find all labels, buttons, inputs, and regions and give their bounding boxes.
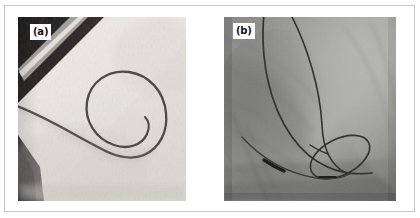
figure-root: (a) (b) — [0, 0, 420, 218]
panel-b-fluoroscopy — [224, 17, 396, 201]
panel-container: (a) (b) — [0, 0, 420, 218]
panel-b-label: (b) — [233, 23, 255, 39]
panel-a-label: (a) — [30, 24, 51, 40]
panel-a-image — [18, 17, 186, 201]
panel-b-image — [224, 17, 396, 201]
panel-a-photograph — [18, 17, 186, 201]
